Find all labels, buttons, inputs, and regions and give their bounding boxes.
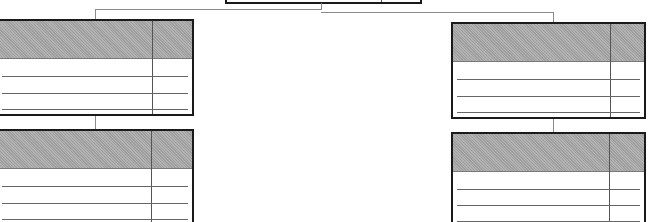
column-divider xyxy=(381,0,382,2)
table-row xyxy=(2,186,188,187)
table-row xyxy=(2,203,188,204)
connector-left-top-to-left-bottom xyxy=(95,116,96,129)
table-row xyxy=(2,109,188,110)
table-row xyxy=(457,205,640,206)
table-row xyxy=(2,93,188,94)
connector-root-right xyxy=(321,12,554,13)
table-header xyxy=(453,134,644,172)
table-row xyxy=(457,79,640,80)
column-divider xyxy=(609,134,610,222)
left-bottom-table-box[interactable] xyxy=(0,129,194,222)
table-row xyxy=(457,96,640,97)
column-divider xyxy=(152,21,153,114)
left-top-table-box[interactable] xyxy=(0,19,194,116)
diagram-canvas xyxy=(0,0,650,222)
table-header xyxy=(0,21,192,59)
table-row xyxy=(2,76,188,77)
connector-root-left xyxy=(95,9,322,10)
root-table-box[interactable] xyxy=(225,0,422,4)
table-row xyxy=(457,189,640,190)
right-top-table-box[interactable] xyxy=(451,22,646,119)
table-row xyxy=(2,219,188,220)
table-header xyxy=(453,24,644,62)
right-bottom-table-box[interactable] xyxy=(451,132,646,222)
table-header xyxy=(0,131,192,169)
column-divider xyxy=(151,131,152,222)
connector-right-top-to-right-bottom xyxy=(553,119,554,132)
table-row xyxy=(457,221,640,222)
column-divider xyxy=(610,24,611,117)
table-row xyxy=(457,112,640,113)
